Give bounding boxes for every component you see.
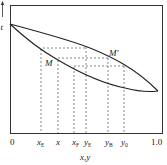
- point-M-prime-label: M′: [108, 48, 119, 58]
- tie-lines: [41, 47, 124, 133]
- tick-yE: yE: [83, 137, 92, 148]
- tick-y0: y0: [120, 137, 128, 148]
- y-axis-label: t: [1, 22, 4, 32]
- tick-x: x: [55, 137, 60, 147]
- vapor-curve: [10, 24, 158, 91]
- phase-diagram: t M M′ 0 xE x xF yE yB y0 1.0 x,y: [0, 0, 167, 165]
- point-M-label: M: [44, 58, 53, 68]
- tick-xF: xF: [71, 137, 79, 148]
- plot-frame: [11, 6, 163, 134]
- arrow-head-icon: [1, 1, 4, 5]
- tick-0: 0: [10, 137, 15, 147]
- tick-1: 1.0: [151, 137, 163, 147]
- tick-yB: yB: [104, 137, 113, 148]
- x-axis-label: x,y: [79, 152, 90, 162]
- tick-xE: xE: [36, 137, 45, 148]
